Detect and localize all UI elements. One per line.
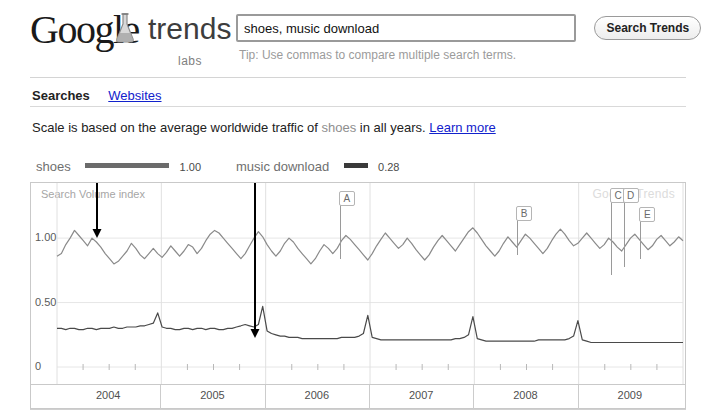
x-tick-2007: 2007: [369, 389, 473, 401]
marker-line-a: [340, 205, 341, 259]
marker-line-d: [624, 202, 625, 267]
y-tick-1-00: 1.00: [35, 231, 56, 243]
learn-more-link[interactable]: Learn more: [429, 120, 495, 135]
x-tick-2008: 2008: [473, 389, 577, 401]
tab-websites[interactable]: Websites: [108, 88, 161, 103]
arrow-to-shoes-line: [91, 183, 104, 240]
arrow-to-music-line: [249, 183, 262, 340]
legend-swatch-shoes: [85, 163, 169, 168]
scale-prefix: Scale is based on the average worldwide …: [32, 120, 322, 135]
google-trends-logo[interactable]: Google trends labs: [30, 10, 235, 72]
chart-legend: shoes 1.00 music download 0.28: [36, 156, 399, 174]
x-axis: 200420052006200720082009: [30, 385, 686, 409]
tab-searches[interactable]: Searches: [32, 88, 90, 103]
search-input[interactable]: [236, 14, 576, 42]
year-separator: [369, 385, 370, 409]
x-tick-2005: 2005: [160, 389, 264, 401]
tabs-divider: [30, 106, 686, 107]
x-tick-2009: 2009: [578, 389, 682, 401]
tab-bar: Searches Websites: [32, 86, 176, 104]
marker-a[interactable]: A: [339, 191, 355, 206]
legend-value-music-download: 0.28: [378, 161, 399, 173]
year-separator: [160, 385, 161, 409]
google-trends-page: Google trends labs Search Trends Tip: Us…: [0, 0, 716, 415]
legend-label-shoes: shoes: [36, 159, 71, 174]
page-header: Google trends labs Search Trends Tip: Us…: [0, 0, 716, 78]
marker-line-c: [611, 202, 612, 275]
scale-term: shoes: [322, 120, 357, 135]
trends-wordmark: trends: [148, 12, 231, 46]
chart-bottom-edge: [30, 409, 686, 410]
year-separator: [578, 385, 579, 409]
legend-label-music-download: music download: [236, 159, 329, 174]
chart-plot-area: [31, 183, 685, 384]
scale-description: Scale is based on the average worldwide …: [32, 120, 496, 135]
labs-label: labs: [178, 54, 202, 68]
scale-suffix: in all years.: [356, 120, 429, 135]
search-tip: Tip: Use commas to compare multiple sear…: [236, 48, 704, 62]
x-tick-2006: 2006: [265, 389, 369, 401]
search-area: Search Trends Tip: Use commas to compare…: [236, 14, 704, 62]
flask-icon: [114, 12, 136, 44]
legend-swatch-music-download: [344, 163, 368, 168]
legend-value-shoes: 1.00: [180, 161, 201, 173]
y-tick-0-50: 0.50: [35, 296, 56, 308]
marker-line-e: [640, 221, 641, 259]
search-trends-button[interactable]: Search Trends: [594, 16, 701, 40]
trends-chart[interactable]: Search Volume index Google Trends 00.501…: [30, 182, 686, 385]
marker-e[interactable]: E: [639, 207, 655, 222]
x-tick-2004: 2004: [56, 389, 160, 401]
legend-item-music-download[interactable]: music download 0.28: [236, 157, 400, 175]
header-divider: [30, 77, 686, 78]
marker-b[interactable]: B: [516, 206, 532, 221]
y-tick-0: 0: [35, 360, 41, 372]
marker-d[interactable]: D: [623, 188, 639, 203]
year-separator: [473, 385, 474, 409]
marker-line-b: [517, 220, 518, 255]
year-separator: [265, 385, 266, 409]
legend-item-shoes[interactable]: shoes 1.00: [36, 157, 201, 175]
